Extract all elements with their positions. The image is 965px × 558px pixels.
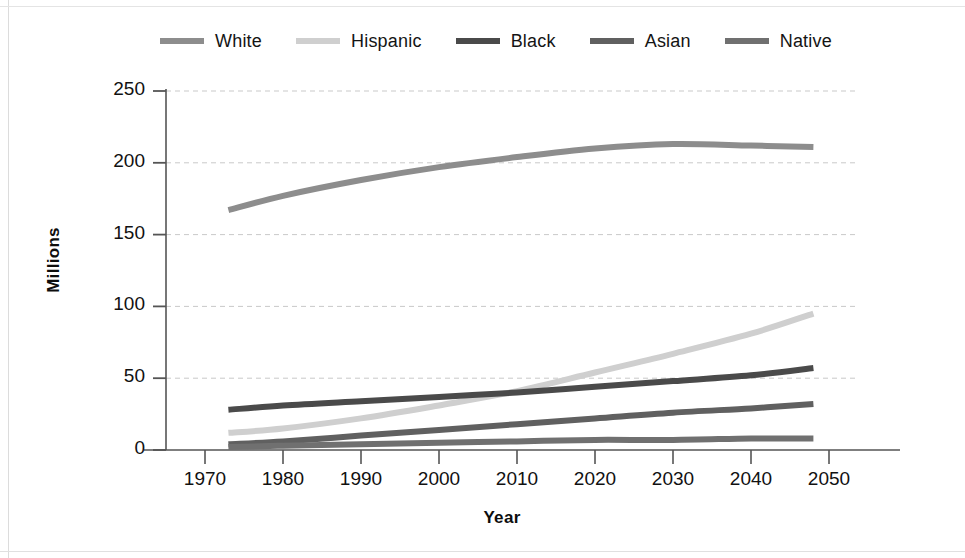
- y-tick-label: 150: [93, 222, 145, 244]
- y-tick-label: 100: [93, 293, 145, 315]
- axis-lines: [144, 89, 900, 450]
- x-tick-label: 1970: [170, 468, 240, 490]
- x-tick-label: 2010: [482, 468, 552, 490]
- y-axis-ticks: [153, 91, 166, 450]
- x-axis-ticks: [205, 450, 829, 464]
- x-tick-label: 1980: [248, 468, 318, 490]
- x-tick-label: 2030: [638, 468, 708, 490]
- data-series: [228, 144, 813, 447]
- x-tick-label: 2040: [716, 468, 786, 490]
- y-tick-label: 250: [93, 78, 145, 100]
- y-tick-label: 200: [93, 150, 145, 172]
- x-tick-label: 2020: [560, 468, 630, 490]
- series-line-hispanic: [228, 314, 813, 433]
- chart-page: WhiteHispanicBlackAsianNative Millions Y…: [0, 0, 965, 558]
- y-tick-label: 0: [93, 437, 145, 459]
- x-tick-label: 1990: [326, 468, 396, 490]
- y-axis-title: Millions: [44, 200, 64, 320]
- series-line-white: [228, 144, 813, 210]
- x-tick-label: 2000: [404, 468, 474, 490]
- chart-plot-area: Millions Year 05010015020025019701980199…: [0, 0, 965, 558]
- x-axis-title: Year: [432, 508, 572, 528]
- y-tick-label: 50: [93, 365, 145, 387]
- x-tick-label: 2050: [794, 468, 864, 490]
